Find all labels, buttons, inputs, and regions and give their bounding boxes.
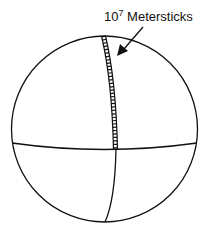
sphere-outline [12, 36, 198, 222]
meterstick-label: 107 Metersticks [104, 8, 193, 24]
earth-sphere-diagram: 107 Metersticks [0, 0, 207, 236]
arrow-shaft [124, 27, 143, 49]
equator-line [12, 143, 197, 150]
meridian-lower [105, 149, 116, 222]
